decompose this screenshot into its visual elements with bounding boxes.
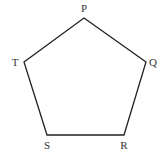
pentagon-shape	[24, 18, 146, 135]
vertex-label-q: Q	[149, 56, 157, 68]
vertex-label-p: P	[81, 2, 87, 14]
pentagon-diagram: P Q R S T	[0, 0, 167, 156]
vertex-label-s: S	[44, 139, 50, 151]
pentagon-svg: P Q R S T	[0, 0, 167, 156]
vertex-label-t: T	[12, 56, 19, 68]
vertex-label-r: R	[120, 139, 128, 151]
